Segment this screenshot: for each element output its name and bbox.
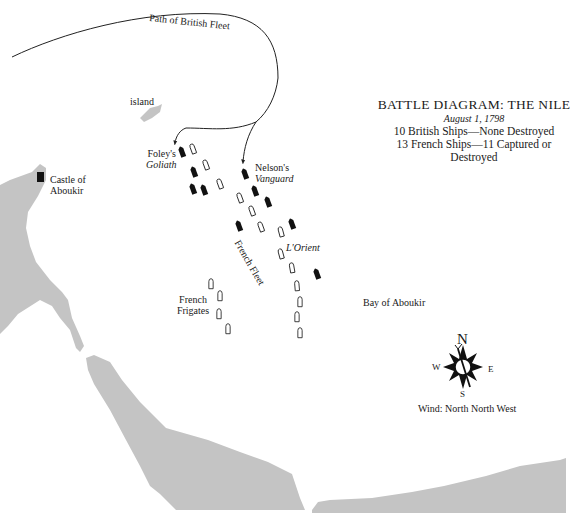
compass-west: W [432,362,441,373]
british-summary: 10 British Ships—None Destroyed [372,125,576,138]
lorient-label: L'Orient [286,242,320,253]
compass-east: E [488,364,494,375]
compass-south: S [460,389,465,400]
island-label: island [130,96,154,107]
castle-icon [37,172,44,182]
compass-rose-icon [443,344,483,389]
foley-label-line2: Goliath [146,159,176,170]
battle-map [0,0,576,517]
frigates-label-line2: Frigates [176,305,210,316]
bay-label: Bay of Aboukir [363,297,425,308]
south-coast [86,355,566,513]
nelson-label: Nelson's Vanguard [255,162,294,184]
frigates-label-line1: French [176,294,210,305]
castle-label-line1: Castle of [50,174,86,185]
french-summary: 13 French Ships—11 Captured or Destroyed [372,138,576,164]
nelson-label-line2: Vanguard [255,173,294,184]
castle-label-line2: Aboukir [50,185,86,196]
battle-date: August 1, 1798 [372,113,576,125]
foley-label: Foley's Goliath [146,148,176,170]
compass-north: N [457,332,468,347]
british-fleet-path [12,14,278,162]
french-frigates [209,279,230,334]
nelson-label-line1: Nelson's [255,162,294,173]
foley-label-line1: Foley's [146,148,176,159]
wind-label: Wind: North North West [418,403,516,414]
title-block: BATTLE DIAGRAM: THE NILE August 1, 1798 … [372,97,576,164]
diagram-title: BATTLE DIAGRAM: THE NILE [372,97,576,113]
frigates-label: French Frigates [176,294,210,316]
castle-label: Castle of Aboukir [50,174,86,196]
